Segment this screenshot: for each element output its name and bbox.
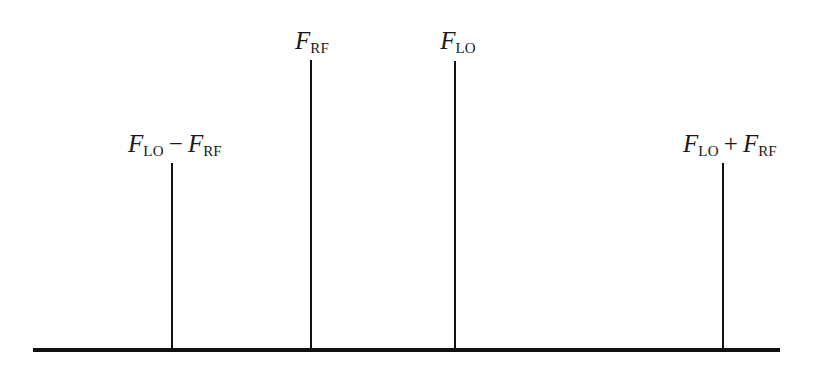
label-operator: −	[164, 130, 188, 157]
label-subscript: RF	[310, 40, 329, 56]
spectrum-figure: FLO−FRF FRF FLO FLO+FRF	[0, 0, 816, 375]
label-lo-carrier: FLO	[440, 28, 476, 53]
spectral-line-lo-carrier	[454, 61, 457, 348]
label-symbol: F	[295, 27, 310, 54]
label-subscript-2: RF	[203, 143, 222, 159]
label-symbol: F	[440, 27, 455, 54]
label-difference-product: FLO−FRF	[128, 131, 222, 156]
label-subscript-2: RF	[758, 143, 777, 159]
label-symbol-2: F	[743, 130, 758, 157]
label-subscript: LO	[455, 40, 475, 56]
label-symbol: F	[128, 130, 143, 157]
label-operator: +	[719, 130, 743, 157]
label-symbol-2: F	[188, 130, 203, 157]
spectral-line-sum-product	[722, 163, 725, 348]
label-subscript: LO	[698, 143, 718, 159]
frequency-axis-baseline	[33, 348, 780, 352]
spectral-line-rf-carrier	[310, 60, 313, 348]
label-symbol: F	[683, 130, 698, 157]
label-subscript: LO	[143, 143, 163, 159]
label-rf-carrier: FRF	[295, 28, 329, 53]
spectral-line-difference-product	[171, 163, 174, 348]
label-sum-product: FLO+FRF	[683, 131, 777, 156]
